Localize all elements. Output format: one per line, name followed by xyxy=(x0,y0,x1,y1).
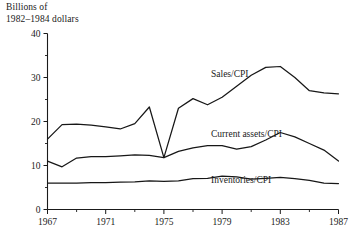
series-line-sales-cpi xyxy=(48,67,339,158)
y-tick-label: 20 xyxy=(31,117,41,127)
y-axis-tick-labels: 010203040 xyxy=(31,29,41,215)
y-axis: 010203040 xyxy=(31,29,48,215)
y-tick-label: 30 xyxy=(31,73,41,83)
x-axis-ticks xyxy=(48,210,339,215)
series-line-current-assets-cpi xyxy=(48,133,339,167)
series-label-sales-cpi: Sales/CPI xyxy=(211,69,248,79)
x-axis-tick-labels: 196719711975197919831987 xyxy=(38,217,348,227)
data-series-group xyxy=(48,67,339,184)
series-annotations-group: Sales/CPICurrent assets/CPIInventories/C… xyxy=(211,69,282,185)
series-label-current-assets-cpi: Current assets/CPI xyxy=(211,129,282,139)
x-tick-label: 1987 xyxy=(329,217,348,227)
line-chart-svg: 010203040 196719711975197919831987 Sales… xyxy=(0,0,351,235)
x-tick-label: 1967 xyxy=(38,217,57,227)
y-tick-label: 10 xyxy=(31,161,41,171)
series-line-inventories-cpi xyxy=(48,176,339,183)
x-tick-label: 1979 xyxy=(213,217,232,227)
chart-container: Billions of 1982–1984 dollars 010203040 … xyxy=(0,0,351,235)
y-tick-label: 40 xyxy=(31,29,41,39)
x-tick-label: 1983 xyxy=(271,217,290,227)
x-tick-label: 1971 xyxy=(96,217,115,227)
x-tick-label: 1975 xyxy=(154,217,173,227)
y-tick-label: 0 xyxy=(36,205,41,215)
x-axis: 196719711975197919831987 xyxy=(38,210,348,227)
series-label-inventories-cpi: Inventories/CPI xyxy=(211,175,271,185)
